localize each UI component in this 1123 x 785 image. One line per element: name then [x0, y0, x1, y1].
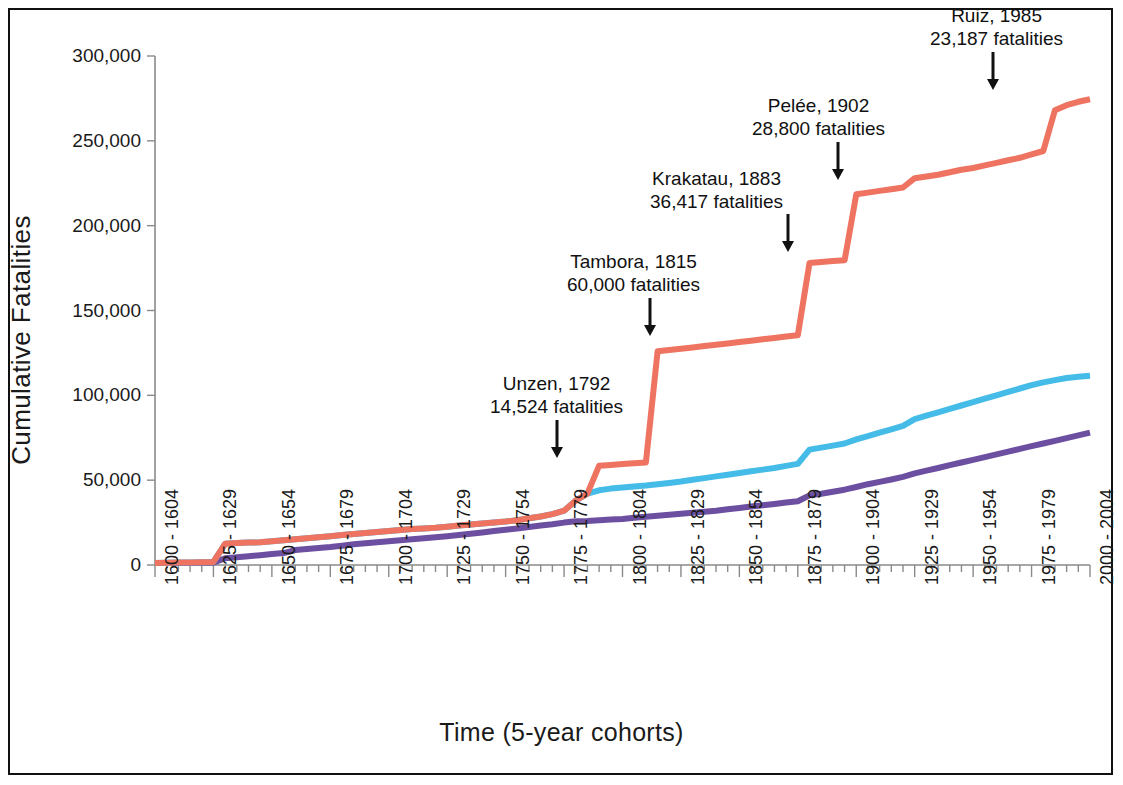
- annotation-title: Pelée, 1902: [752, 94, 885, 117]
- annotation-title: Unzen, 1792: [490, 372, 623, 395]
- annotation-detail: 14,524 fatalities: [490, 395, 623, 418]
- x-tick-label: 1975 - 1979: [1039, 489, 1060, 585]
- x-tick-label: 1800 - 1804: [630, 489, 651, 585]
- x-tick-label: 1875 - 1879: [805, 489, 826, 585]
- y-tick-label: 0: [0, 554, 141, 576]
- x-tick-label: 1925 - 1929: [922, 489, 943, 585]
- y-tick-label: 200,000: [0, 215, 141, 237]
- x-tick-label: 1775 - 1779: [571, 489, 592, 585]
- x-tick-label: 1825 - 1829: [688, 489, 709, 585]
- x-tick-label: 1850 - 1854: [746, 489, 767, 585]
- x-tick-label: 1600 - 1604: [162, 489, 183, 585]
- x-tick-label: 1650 - 1654: [279, 489, 300, 585]
- annotation-detail: 36,417 fatalities: [650, 190, 783, 213]
- annotation-krakatau: Krakatau, 188336,417 fatalities: [650, 167, 783, 213]
- annotation-pelee: Pelée, 190228,800 fatalities: [752, 94, 885, 140]
- x-tick-label: 1950 - 1954: [980, 489, 1001, 585]
- annotation-tambora: Tambora, 181560,000 fatalities: [567, 250, 700, 296]
- chart-page: Cumulative Fatalities Time (5-year cohor…: [0, 0, 1123, 785]
- annotation-detail: 23,187 fatalities: [930, 27, 1063, 50]
- x-tick-label: 1675 - 1679: [337, 489, 358, 585]
- y-tick-label: 300,000: [0, 45, 141, 67]
- x-tick-label: 2000 - 2004: [1097, 489, 1118, 585]
- annotation-detail: 60,000 fatalities: [567, 273, 700, 296]
- x-tick-label: 1700 - 1704: [396, 489, 417, 585]
- y-tick-label: 250,000: [0, 130, 141, 152]
- y-tick-label: 150,000: [0, 300, 141, 322]
- annotation-ruiz: Ruiz, 198523,187 fatalities: [930, 4, 1063, 50]
- x-tick-label: 1625 - 1629: [220, 489, 241, 585]
- x-tick-label: 1750 - 1754: [513, 489, 534, 585]
- annotation-detail: 28,800 fatalities: [752, 117, 885, 140]
- annotation-unzen: Unzen, 179214,524 fatalities: [490, 372, 623, 418]
- annotation-title: Krakatau, 1883: [650, 167, 783, 190]
- x-tick-label: 1900 - 1904: [863, 489, 884, 585]
- x-tick-label: 1725 - 1729: [454, 489, 475, 585]
- y-tick-label: 100,000: [0, 384, 141, 406]
- annotation-title: Tambora, 1815: [567, 250, 700, 273]
- annotation-title: Ruiz, 1985: [930, 4, 1063, 27]
- y-tick-label: 50,000: [0, 469, 141, 491]
